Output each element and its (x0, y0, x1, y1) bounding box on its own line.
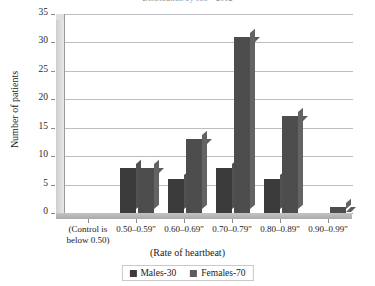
bar-males (216, 168, 232, 213)
y-axis-tick-label: 15 (8, 121, 48, 131)
gridline (65, 128, 353, 129)
y-axis-tick-label: 35 (8, 7, 48, 17)
bar-front-face (186, 139, 202, 213)
y-axis-tick-mark (51, 99, 55, 100)
bar-front-face (282, 116, 298, 213)
y-axis-tick-mark (51, 14, 55, 15)
bar-males (120, 168, 136, 213)
y-axis-tick-label: 10 (8, 149, 48, 159)
x-axis-tick-mark (136, 219, 137, 223)
bar-front-face (234, 37, 250, 213)
y-axis-tick-mark (51, 71, 55, 72)
gridline (65, 156, 353, 157)
plot-left-wall (56, 20, 64, 219)
legend-swatch-males-icon (129, 270, 136, 277)
gridline (65, 71, 353, 72)
bar-males (168, 179, 184, 213)
gridline (65, 185, 353, 186)
bar-females (282, 116, 298, 213)
chart-title: Distribution by sex – 2012 (0, 0, 375, 3)
x-axis-label: (Rate of heartbeat) (0, 247, 375, 258)
legend-label-males: Males-30 (140, 268, 176, 278)
y-axis-tick-label: 0 (8, 206, 48, 216)
bar-front-face (168, 179, 184, 213)
y-axis-tick-mark (51, 185, 55, 186)
x-axis-tick-label: 0.90–0.99″ (297, 224, 359, 235)
x-axis-tick-mark (232, 219, 233, 223)
gridline (65, 99, 353, 100)
bar-side-face (154, 159, 159, 209)
bar-front-face (120, 168, 136, 213)
bar-females (138, 168, 154, 213)
bar-front-face (138, 168, 154, 213)
bar-females (186, 139, 202, 213)
x-axis-tick-mark (280, 219, 281, 223)
x-axis-tick-mark (184, 219, 185, 223)
bar-side-face (250, 29, 255, 209)
gridline (65, 42, 353, 43)
legend-item-males[interactable]: Males-30 (129, 268, 176, 278)
legend-item-females[interactable]: Females-70 (190, 268, 245, 278)
legend-swatch-females-icon (190, 270, 197, 277)
bar-side-face (298, 108, 303, 209)
bar-top-face (346, 207, 356, 212)
y-axis-tick-label: 25 (8, 64, 48, 74)
y-axis-tick-mark (51, 156, 55, 157)
gridline (65, 14, 353, 15)
y-axis-tick-label: 5 (8, 178, 48, 188)
chart-legend: Males-30 Females-70 (121, 265, 253, 281)
plot-area (64, 14, 353, 214)
bar-males (264, 179, 280, 213)
bar-side-face (202, 131, 207, 209)
y-axis-tick-mark (51, 42, 55, 43)
x-axis-tick-mark (88, 219, 89, 223)
legend-label-females: Females-70 (201, 268, 245, 278)
y-axis-tick-mark (51, 213, 55, 214)
bar-females (234, 37, 250, 213)
plot-floor (56, 213, 352, 219)
x-axis-tick-mark (328, 219, 329, 223)
bar-front-face (264, 179, 280, 213)
y-axis-tick-label: 20 (8, 92, 48, 102)
bar-chart: Distribution by sex – 2012 Number of pat… (0, 0, 375, 286)
bar-front-face (216, 168, 232, 213)
y-axis-tick-label: 30 (8, 35, 48, 45)
y-axis-tick-mark (51, 128, 55, 129)
